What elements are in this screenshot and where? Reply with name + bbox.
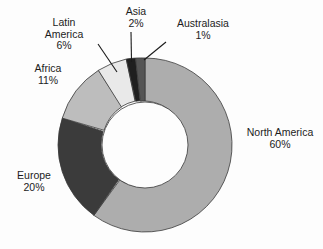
slice-label-north-america-name: North America [238, 127, 322, 139]
donut-chart: Latin America 6% Asia 2% Australasia 1% … [0, 0, 323, 249]
slice-label-asia-name: Asia [112, 6, 160, 18]
slice-label-australasia-name: Australasia [160, 18, 246, 30]
slice-label-australasia: Australasia 1% [160, 18, 246, 41]
slice-value-australasia: 1% [160, 30, 246, 42]
slice-label-latin-america: Latin America 6% [31, 17, 97, 52]
slice-label-europe: Europe 20% [3, 170, 65, 193]
slice-label-africa-name: Africa [17, 63, 79, 75]
slice-value-europe: 20% [3, 182, 65, 194]
slice-value-north-america: 60% [238, 139, 322, 151]
australasia-leader-line [144, 42, 166, 60]
slice-label-africa: Africa 11% [17, 63, 79, 86]
slice-value-asia: 2% [112, 18, 160, 30]
slice-label-north-america: North America 60% [238, 127, 322, 150]
slice-label-latin-america-line1: Latin [31, 17, 97, 29]
donut-hole [102, 102, 188, 188]
asia-leader-line [131, 32, 132, 62]
slice-value-africa: 11% [17, 75, 79, 87]
slice-value-latin-america: 6% [31, 40, 97, 52]
slice-label-asia: Asia 2% [112, 6, 160, 29]
slice-label-europe-name: Europe [3, 170, 65, 182]
